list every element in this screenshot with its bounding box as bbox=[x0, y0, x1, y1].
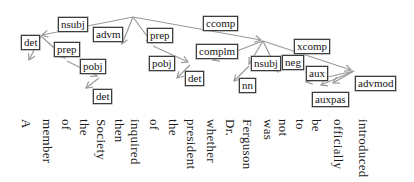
dependency-parse-figure: nsubj det advm prep pobj det prep pobj d… bbox=[0, 0, 414, 182]
word-dr: Dr. bbox=[222, 119, 238, 136]
dep-label-aux-to: aux bbox=[306, 66, 328, 81]
word-of-8: of bbox=[146, 119, 162, 130]
dep-label-advm-then: advm bbox=[93, 27, 123, 42]
word-president: president bbox=[183, 119, 199, 169]
word-member: member bbox=[39, 119, 55, 163]
dep-label-xcomp-introduced: xcomp bbox=[294, 39, 330, 54]
dep-label-nsubj-member: nsubj bbox=[58, 17, 88, 32]
dep-label-prep-of8: prep bbox=[147, 28, 173, 43]
dep-label-prep-of3: prep bbox=[54, 42, 80, 57]
dep-label-det-the9: det bbox=[185, 71, 204, 86]
word-was: was bbox=[260, 119, 276, 140]
word-then: then bbox=[111, 119, 127, 143]
dep-label-nn-dr: nn bbox=[239, 78, 256, 93]
dep-label-neg-not: neg bbox=[282, 55, 304, 70]
word-ferguson: Ferguson bbox=[239, 119, 255, 170]
word-be: be bbox=[308, 119, 324, 132]
dep-label-advmod-officially: advmod bbox=[355, 76, 396, 91]
dep-label-nsubj-ferguson: nsubj bbox=[251, 56, 281, 71]
word-whether: whether bbox=[203, 119, 219, 163]
word-officially: officially bbox=[330, 119, 346, 169]
word-society: Society bbox=[93, 119, 109, 160]
word-to: to bbox=[292, 119, 308, 130]
dep-label-complm-whether: complm bbox=[196, 44, 238, 59]
word-inquired: inquired bbox=[127, 119, 143, 165]
dep-label-pobj-society: pobj bbox=[80, 59, 106, 74]
dep-label-det-the4: det bbox=[93, 89, 112, 104]
word-the-4: the bbox=[76, 119, 92, 136]
dep-label-pobj-president: pobj bbox=[149, 56, 175, 71]
dep-label-det-a: det bbox=[21, 35, 40, 50]
word-a: A bbox=[18, 119, 34, 129]
dep-label-auxpas-be: auxpas bbox=[312, 92, 349, 107]
word-introduced: introduced bbox=[355, 119, 371, 178]
word-not: not bbox=[275, 119, 291, 137]
dep-label-ccomp-was: ccomp bbox=[203, 16, 238, 31]
word-of-3: of bbox=[58, 119, 74, 130]
word-the-9: the bbox=[165, 119, 181, 136]
